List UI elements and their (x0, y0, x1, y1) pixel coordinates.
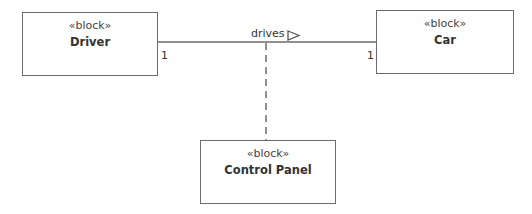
block-name: Control Panel (201, 162, 335, 178)
diagram-canvas: «block» Driver «block» Car «block» Contr… (0, 0, 532, 214)
multiplicity-source-label: 1 (161, 50, 168, 62)
block-driver[interactable]: «block» Driver (22, 12, 158, 76)
block-stereotype: «block» (201, 147, 335, 161)
association-name-label: drives (251, 28, 285, 40)
block-name: Driver (23, 34, 157, 50)
block-stereotype: «block» (377, 17, 513, 31)
direction-triangle-icon (288, 31, 299, 40)
block-stereotype: «block» (23, 19, 157, 33)
block-name: Car (377, 32, 513, 48)
block-control-panel[interactable]: «block» Control Panel (200, 140, 336, 204)
block-car[interactable]: «block» Car (376, 10, 514, 74)
multiplicity-target-label: 1 (367, 50, 374, 62)
